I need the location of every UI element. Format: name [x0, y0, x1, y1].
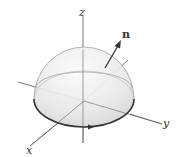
- y-axis-label: y: [162, 117, 170, 130]
- normal-vector-label: n: [122, 28, 130, 41]
- hemisphere-diagram: z y x n: [0, 0, 178, 157]
- x-axis-positive: [30, 123, 58, 146]
- x-axis-label: x: [26, 144, 33, 157]
- diagram: z y x n: [0, 0, 178, 157]
- hemisphere-surface: [34, 47, 134, 127]
- y-axis-positive: [130, 114, 162, 124]
- normal-vector-arrowhead-icon: [115, 40, 122, 49]
- z-axis-label: z: [78, 6, 85, 19]
